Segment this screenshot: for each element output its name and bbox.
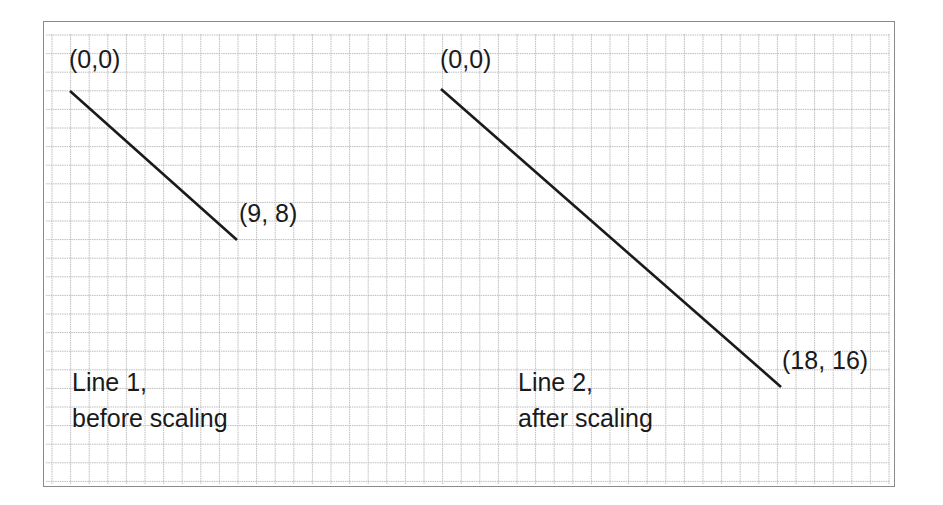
line-2-segment xyxy=(441,89,781,387)
line-1-end-label: (9, 8) xyxy=(239,198,297,228)
line-1-caption-title: Line 1, xyxy=(72,367,147,397)
line-1-caption-subtitle: before scaling xyxy=(72,403,228,433)
line-2-caption-title: Line 2, xyxy=(518,367,593,397)
line-2-caption-subtitle: after scaling xyxy=(518,403,653,433)
line-2-start-label: (0,0) xyxy=(440,44,491,74)
line-2-end-label: (18, 16) xyxy=(782,345,868,375)
line-1-start-label: (0,0) xyxy=(69,44,120,74)
